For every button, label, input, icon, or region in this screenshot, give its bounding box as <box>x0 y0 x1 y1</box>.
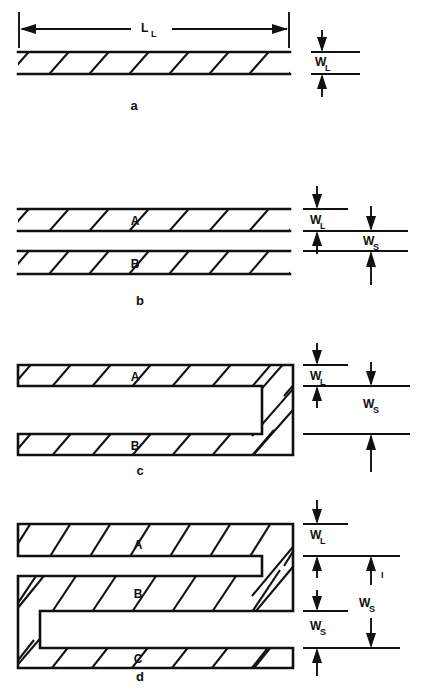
label-line-width-d-subscript: L <box>320 536 326 546</box>
panel-a-length-arrow-right <box>272 24 288 34</box>
panel-a-width-arrow-bottom <box>317 74 327 89</box>
panel-letter-c: c <box>136 463 143 478</box>
label-line-width-a-subscript: L <box>325 63 331 73</box>
label-line-length-subscript: L <box>151 29 157 39</box>
label-space-width-c-subscript: S <box>373 405 379 415</box>
label-space-width-d-lower-subscript: S <box>320 627 326 637</box>
panel-d-segment-label-A: A <box>134 538 143 552</box>
panel-c-segment-label-A: A <box>131 370 140 384</box>
panel-b-WL-arrow-top <box>312 194 322 209</box>
panel-c-WL-arrow-bottom <box>312 386 322 401</box>
panel-b: A B W L <box>4 186 408 308</box>
panel-d: A B C W L W S <box>4 500 400 684</box>
panel-letter-d: d <box>136 669 144 684</box>
panel-d-WSI-arrow-bottom <box>366 633 376 648</box>
panel-c-WS-arrow-top <box>366 371 376 386</box>
label-line-width-b-subscript: L <box>320 221 326 231</box>
panel-a: L L W L a <box>4 12 360 113</box>
panel-b-segment-label-A: A <box>131 214 140 228</box>
panel-d-WL-arrow <box>312 509 322 524</box>
label-space-width-b-subscript: S <box>373 242 379 252</box>
panel-c-WS-arrow-bottom <box>366 434 376 450</box>
panel-d-WSinner-arrow-bottom <box>312 596 322 611</box>
label-space-width-alt-superscript: I <box>381 570 384 580</box>
panel-d-segment-label-B: B <box>134 587 143 601</box>
panel-d-serpentine-outline <box>18 524 293 668</box>
panel-d-segment-label-C: C <box>134 652 143 666</box>
figure-container: L L W L a <box>0 0 424 695</box>
panel-d-hatching <box>4 518 320 678</box>
panel-c: A B W L W S c <box>4 343 410 478</box>
panel-d-WSinner-arrow-top <box>312 556 322 571</box>
panel-a-width-arrow-top <box>317 37 327 52</box>
panel-d-WSI-arrow-top <box>366 556 376 571</box>
label-space-width-alt-subscript: S <box>369 604 375 614</box>
label-line-width-c-subscript: L <box>320 377 326 387</box>
panel-letter-b: b <box>136 293 144 308</box>
panel-c-segment-label-B: B <box>131 439 140 453</box>
panel-b-WS-arrow-bottom <box>366 251 376 267</box>
panel-letter-a: a <box>130 98 138 113</box>
label-line-length: L <box>141 21 148 35</box>
technical-diagram: L L W L a <box>0 0 424 695</box>
panel-b-WL-arrow-bottom <box>312 231 322 246</box>
panel-c-WL-arrow-top <box>312 350 322 365</box>
panel-b-WS-arrow-top <box>366 216 376 231</box>
panel-a-length-arrow-left <box>20 24 36 34</box>
panel-d-WSlower-arrow <box>312 648 322 663</box>
panel-b-segment-label-B: B <box>131 257 140 271</box>
